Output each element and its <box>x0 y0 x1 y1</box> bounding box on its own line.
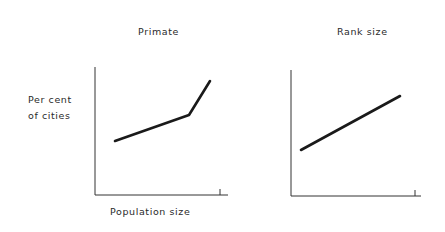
rank-size-axes <box>291 70 421 196</box>
rank-size-line <box>301 96 400 150</box>
charts-canvas <box>0 0 445 232</box>
primate-line <box>115 81 210 141</box>
